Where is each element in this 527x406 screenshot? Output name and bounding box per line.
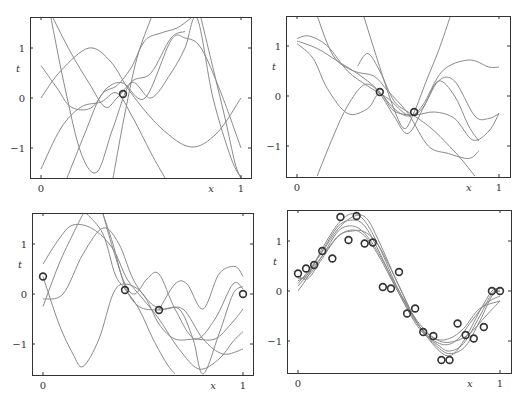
- panel-bottom-left: 01−101xt: [12, 213, 253, 391]
- x-tick-label-0: 0: [40, 380, 46, 391]
- sample-curve: [87, 214, 175, 374]
- sample-curves: [43, 214, 243, 374]
- y-tick-label: 1: [275, 41, 281, 52]
- y-tick-label: 1: [19, 43, 25, 54]
- data-point-marker: [295, 270, 302, 277]
- y-tick-label: 1: [276, 236, 282, 247]
- observed-data-points: [295, 213, 504, 364]
- sample-curve: [201, 18, 241, 178]
- data-point-marker: [345, 237, 352, 244]
- y-axis-label: t: [273, 256, 278, 267]
- data-point-marker: [470, 335, 477, 342]
- figure-canvas: 01−101xt 01−101xt 01−101xt 01−101xt: [0, 0, 527, 406]
- data-point-marker: [438, 357, 445, 364]
- x-axis-label: x: [466, 182, 472, 193]
- x-axis-label: x: [208, 183, 214, 194]
- sample-curve: [317, 81, 479, 176]
- y-tick-label: 0: [21, 289, 27, 300]
- data-point-marker: [337, 214, 344, 221]
- y-tick-label: −1: [267, 336, 282, 347]
- data-point-marker: [329, 255, 336, 262]
- sample-curve: [43, 224, 243, 369]
- y-tick-label: −1: [12, 339, 27, 350]
- x-tick-label-0: 0: [38, 183, 44, 194]
- data-point-marker: [480, 324, 487, 331]
- y-tick-label: 1: [21, 239, 27, 250]
- data-point-marker: [361, 240, 368, 247]
- data-point-marker: [303, 265, 310, 272]
- x-tick-label-1: 1: [496, 182, 502, 193]
- x-axis-label: x: [210, 380, 216, 391]
- data-point-marker: [379, 284, 386, 291]
- sample-curve: [317, 16, 479, 159]
- sample-curve: [297, 36, 499, 116]
- sample-curve: [103, 214, 243, 339]
- y-tick-label: 0: [276, 286, 282, 297]
- panel-bottom-right: 01−101xt: [267, 210, 511, 389]
- panel-top-right: 01−101xt: [266, 16, 510, 193]
- sample-curve: [43, 228, 243, 355]
- data-point-marker: [446, 357, 453, 364]
- panel-top-left: 01−101xt: [10, 17, 251, 194]
- sample-curves: [297, 16, 499, 176]
- sample-curve: [43, 214, 83, 307]
- y-axis-label: t: [18, 259, 23, 270]
- sample-curve: [41, 35, 241, 148]
- data-point-marker: [412, 305, 419, 312]
- sample-curve: [67, 18, 191, 178]
- x-tick-label-1: 1: [497, 378, 503, 389]
- data-point-marker: [454, 320, 461, 327]
- y-axis-label: t: [272, 61, 277, 72]
- x-tick-label-1: 1: [238, 183, 244, 194]
- y-axis-label: t: [16, 63, 21, 74]
- x-tick-label-0: 0: [294, 182, 300, 193]
- sample-curve: [298, 215, 500, 354]
- y-tick-label: 0: [275, 91, 281, 102]
- x-tick-label-0: 0: [295, 378, 301, 389]
- y-tick-label: 0: [19, 93, 25, 104]
- data-point-marker: [388, 285, 395, 292]
- x-tick-label-1: 1: [240, 380, 246, 391]
- data-point-marker: [240, 291, 247, 298]
- data-point-marker: [396, 269, 403, 276]
- sample-curves: [41, 17, 241, 178]
- y-tick-label: −1: [266, 141, 281, 152]
- y-tick-label: −1: [10, 143, 25, 154]
- x-axis-label: x: [467, 378, 473, 389]
